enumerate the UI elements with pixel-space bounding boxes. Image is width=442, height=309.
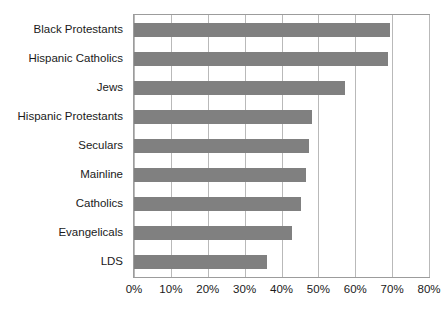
x-tick-label: 50% xyxy=(307,280,330,298)
bar xyxy=(134,226,292,240)
category-label: Seculars xyxy=(78,138,123,152)
category-label: Hispanic Catholics xyxy=(28,51,123,65)
category-axis: Black ProtestantsHispanic CatholicsJewsH… xyxy=(0,14,128,264)
bar xyxy=(134,81,345,95)
x-tick-label: 80% xyxy=(417,280,440,298)
x-tick-label: 20% xyxy=(196,280,219,298)
bar xyxy=(134,52,388,66)
x-tick-label: 40% xyxy=(270,280,293,298)
category-label: Black Protestants xyxy=(34,22,123,36)
category-label: Mainline xyxy=(80,167,123,181)
bar-chart: Black ProtestantsHispanic CatholicsJewsH… xyxy=(0,0,442,309)
category-label: LDS xyxy=(101,254,123,268)
bar xyxy=(134,168,306,182)
category-label: Evangelicals xyxy=(58,225,123,239)
bar xyxy=(134,197,301,211)
x-tick-label: 30% xyxy=(233,280,256,298)
bars-layer xyxy=(134,15,429,277)
bar xyxy=(134,110,312,124)
category-label: Catholics xyxy=(76,196,123,210)
value-axis: 0%10%20%30%40%50%60%70%80% xyxy=(133,280,430,302)
bar xyxy=(134,255,267,269)
plot-area xyxy=(133,14,430,278)
x-tick-label: 70% xyxy=(381,280,404,298)
category-label: Hispanic Protestants xyxy=(18,109,123,123)
category-label: Jews xyxy=(97,80,123,94)
bar xyxy=(134,23,390,37)
x-tick-label: 0% xyxy=(126,280,143,298)
x-tick-label: 60% xyxy=(344,280,367,298)
bar xyxy=(134,139,309,153)
x-tick-label: 10% xyxy=(159,280,182,298)
gridline-80pct xyxy=(429,15,430,277)
